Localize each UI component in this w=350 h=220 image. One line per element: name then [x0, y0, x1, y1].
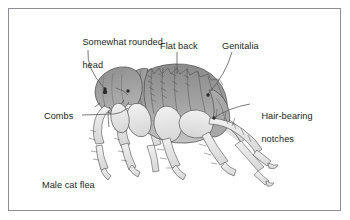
label-flat-back: Flat back — [160, 41, 198, 52]
label-hair-bearing-line1: Hair-bearing — [261, 111, 312, 121]
midleg-tarsus — [157, 138, 186, 180]
figure-caption: Male cat flea — [42, 180, 95, 191]
label-rounded-head-line2: head — [82, 60, 103, 70]
label-combs: Combs — [44, 111, 73, 122]
hindleg-tibia — [199, 132, 236, 176]
label-hair-bearing-notches: Hair-bearing notches — [251, 100, 313, 156]
label-genitalia: Genitalia — [222, 41, 259, 52]
figure-container: Somewhat rounded head Flat back Genitali… — [0, 0, 350, 220]
label-rounded-head: Somewhat rounded head — [72, 26, 163, 82]
label-hair-bearing-line2: notches — [261, 134, 294, 144]
foreleg — [89, 106, 111, 180]
label-rounded-head-line1: Somewhat rounded — [82, 37, 162, 47]
